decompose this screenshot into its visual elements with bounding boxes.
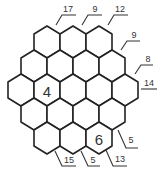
hex-cell[interactable]: 6: [86, 122, 112, 154]
clue-top: 9: [82, 4, 102, 25]
cell-value: 4: [43, 83, 51, 100]
clue-right: 9: [121, 30, 140, 50]
clue-bottom-right: 13: [106, 150, 127, 166]
clue-right: 8: [135, 54, 153, 74]
clue-right: 14: [141, 78, 157, 89]
clue-leader-line: [121, 41, 140, 50]
clue-top: 12: [108, 4, 128, 25]
hex-shape[interactable]: [34, 122, 60, 154]
hex-cell[interactable]: [34, 122, 60, 154]
clue-bottom-right: 5: [118, 130, 138, 148]
cell-value: 6: [95, 131, 103, 148]
clue-leader-line: [56, 15, 76, 25]
clue-label: 8: [145, 54, 150, 64]
hex-puzzle-board: 46 179129814513515: [0, 0, 158, 181]
clue-label: 9: [92, 4, 97, 14]
hex-cell[interactable]: [60, 122, 86, 154]
clue-label: 17: [63, 4, 73, 14]
clue-leader-line: [108, 15, 128, 25]
clue-label: 13: [115, 154, 125, 164]
clue-label: 9: [131, 30, 136, 40]
clue-label: 5: [128, 135, 133, 145]
clue-label: 5: [90, 155, 95, 165]
clue-label: 15: [64, 155, 74, 165]
clue-leader-line: [135, 65, 153, 74]
clue-label: 12: [115, 4, 125, 14]
clue-top: 17: [56, 4, 76, 25]
hex-cells: 46: [8, 26, 138, 154]
hex-shape[interactable]: [60, 122, 86, 154]
clue-leader-line: [82, 15, 102, 25]
clue-label: 14: [144, 78, 154, 88]
